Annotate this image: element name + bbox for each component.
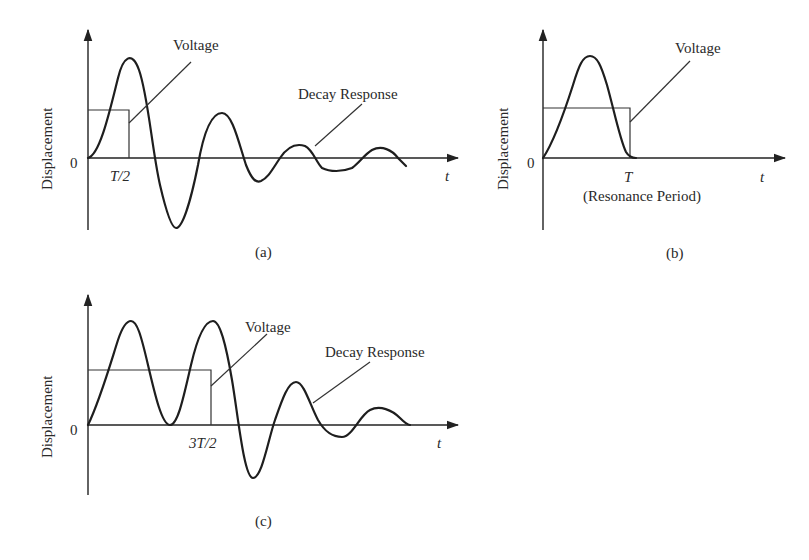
y-axis-label-a: Displacement (39, 107, 55, 190)
panel-a: Voltage Decay Response 0 T/2 t Displacem… (39, 30, 458, 261)
voltage-label-c: Voltage (245, 319, 291, 335)
caption-b: (b) (666, 245, 684, 262)
displacement-curve-a (88, 58, 406, 228)
voltage-label-a: Voltage (173, 37, 219, 53)
voltage-label-b: Voltage (675, 40, 721, 56)
pulse-end-label-b: T (624, 169, 634, 185)
response-label-a: Decay Response (298, 86, 398, 102)
origin-label-b: 0 (527, 155, 535, 171)
y-axis-label-c: Displacement (39, 375, 55, 458)
panel-b: Voltage 0 T (Resonance Period) t Displac… (495, 30, 785, 262)
panel-c: Voltage Decay Response 0 3T/2 t Displace… (39, 295, 458, 530)
x-axis-label-b: t (760, 169, 765, 185)
voltage-leader-c (211, 334, 267, 386)
x-axis-label-a: t (445, 168, 450, 184)
displacement-curve-b (543, 56, 636, 158)
figure-canvas: Voltage Decay Response 0 T/2 t Displacem… (0, 0, 809, 560)
pulse-end-label-a: T/2 (110, 168, 131, 184)
response-label-c: Decay Response (325, 344, 425, 360)
pulse-end-sublabel-b: (Resonance Period) (583, 188, 701, 205)
caption-c: (c) (255, 513, 272, 530)
y-axis-label-b: Displacement (495, 107, 511, 190)
origin-label-c: 0 (70, 422, 78, 438)
pulse-end-label-c: 3T/2 (188, 435, 217, 451)
origin-label-a: 0 (70, 155, 78, 171)
response-leader-c (313, 362, 370, 403)
x-axis-label-c: t (437, 435, 442, 451)
caption-a: (a) (255, 244, 272, 261)
voltage-leader-b (630, 61, 690, 122)
response-leader-a (315, 104, 362, 146)
